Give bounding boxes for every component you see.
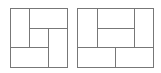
right-rectangle-tiling [78,9,154,68]
left-square-tiling [11,9,68,68]
outer-border [11,9,68,68]
tiling-diagram [0,0,161,73]
